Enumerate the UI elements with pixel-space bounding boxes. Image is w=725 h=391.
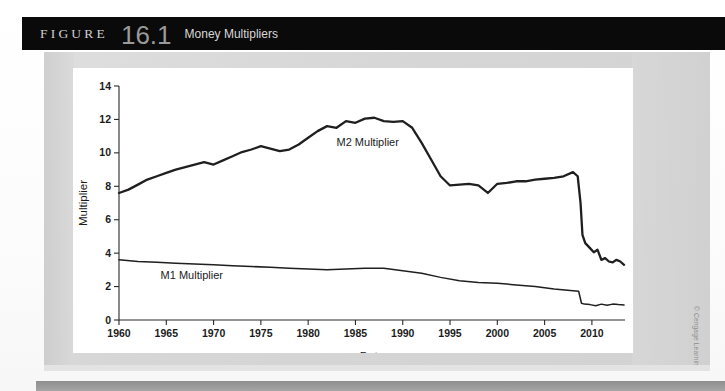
y-tick-label: 8	[105, 180, 111, 192]
axis-lines	[119, 86, 625, 320]
x-tick-label: 1980	[296, 327, 320, 339]
plot-area-card: 02468101214 1960196519701975198019851990…	[73, 68, 633, 353]
x-tick-label: 2000	[486, 327, 510, 339]
y-tick-label: 2	[105, 280, 111, 292]
series-line-m1-multiplier	[119, 260, 624, 306]
y-axis-ticks: 02468101214	[99, 80, 119, 326]
y-tick-label: 12	[99, 113, 111, 125]
figure-word-label: FIGURE	[40, 26, 108, 42]
figure-title-label: Money Multipliers	[185, 27, 278, 41]
x-tick-label: 1965	[155, 327, 179, 339]
x-tick-label: 1960	[107, 327, 131, 339]
footer-separator-bar	[36, 381, 725, 391]
y-tick-label: 14	[99, 80, 111, 92]
panel-bottom-edge	[44, 365, 710, 371]
figure-number-label: 16.1	[121, 22, 172, 48]
figure-header-bar: FIGURE 16.1 Money Multipliers	[22, 17, 725, 50]
copyright-credit: © Cengage Learning	[693, 306, 700, 370]
series-annotation: M1 Multiplier	[161, 269, 224, 281]
x-tick-label: 1970	[202, 327, 226, 339]
chart-axes	[119, 86, 625, 320]
x-tick-label: 1985	[344, 327, 368, 339]
x-axis-ticks: 1960196519701975198019851990199520002005…	[107, 320, 603, 339]
series-annotation: M2 Multiplier	[337, 136, 400, 148]
x-tick-label: 1995	[438, 327, 462, 339]
figure-page: FIGURE 16.1 Money Multipliers 0246810121…	[0, 0, 725, 391]
chart-annotations: M2 MultiplierM1 Multiplier	[161, 136, 400, 281]
x-tick-label: 1975	[249, 327, 273, 339]
x-tick-label: 2005	[533, 327, 557, 339]
y-tick-label: 4	[105, 247, 111, 259]
y-axis-title: Multiplier	[77, 180, 89, 226]
y-tick-label: 0	[105, 314, 111, 326]
y-tick-label: 10	[99, 146, 111, 158]
money-multipliers-chart: 02468101214 1960196519701975198019851990…	[73, 68, 633, 353]
y-tick-label: 6	[105, 213, 111, 225]
x-axis-title: Date	[360, 350, 384, 353]
x-tick-label: 1990	[391, 327, 415, 339]
x-tick-label: 2010	[580, 327, 604, 339]
panel-left-shading	[44, 52, 74, 365]
